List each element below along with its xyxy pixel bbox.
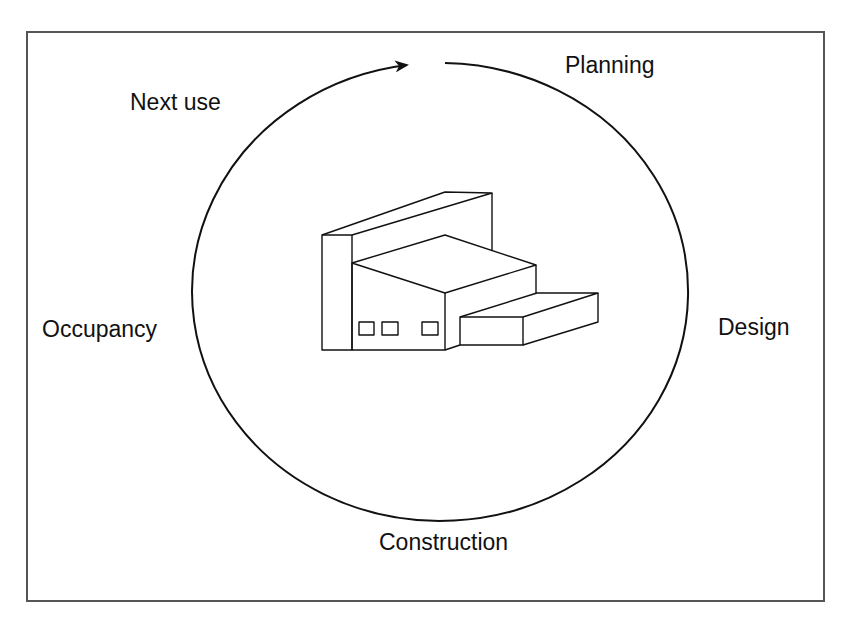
stage-label-planning: Planning — [565, 52, 655, 78]
stage-label-occupancy: Occupancy — [42, 316, 158, 342]
window — [422, 322, 438, 335]
building-icon — [322, 192, 598, 350]
stage-label-construction: Construction — [379, 529, 508, 555]
window — [382, 322, 398, 335]
window — [359, 322, 374, 335]
lifecycle-diagram: Planning Design Construction Occupancy N… — [0, 0, 857, 620]
stage-label-next-use: Next use — [130, 89, 221, 115]
stage-label-design: Design — [718, 314, 790, 340]
